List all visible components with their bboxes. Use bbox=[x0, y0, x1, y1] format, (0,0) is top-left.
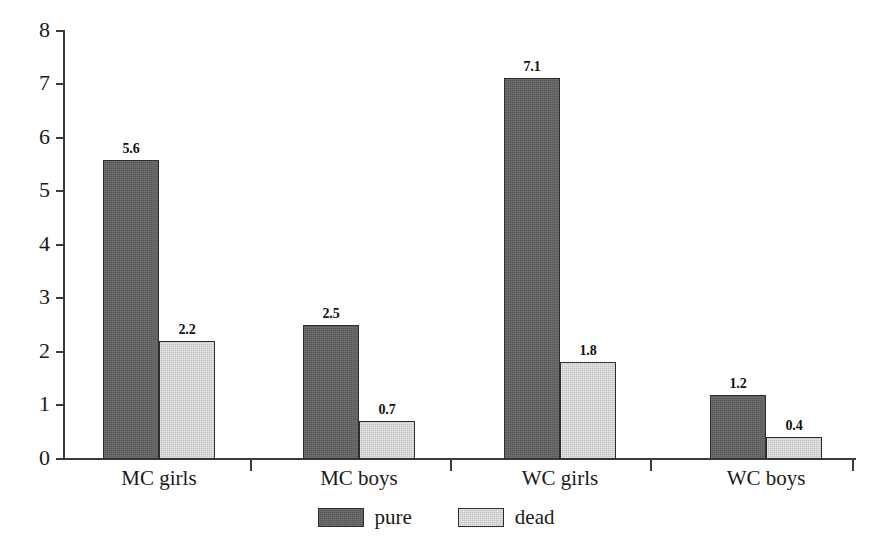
bar-wc-boys-dead[interactable] bbox=[766, 437, 822, 459]
x-tick-3 bbox=[650, 460, 652, 471]
legend-label-pure: pure bbox=[375, 507, 412, 528]
y-tick-label-5: 5 bbox=[18, 179, 50, 201]
bar-value-mc-girls-dead: 2.2 bbox=[159, 323, 215, 337]
x-tick-1 bbox=[250, 460, 252, 471]
legend-item-pure[interactable]: pure bbox=[318, 507, 412, 528]
bar-value-mc-girls-pure: 5.6 bbox=[103, 142, 159, 156]
y-tick-label-1: 1 bbox=[18, 393, 50, 415]
x-tick-4 bbox=[852, 460, 854, 471]
y-tick-1 bbox=[56, 404, 65, 406]
legend-swatch-pure-icon bbox=[318, 508, 364, 527]
y-tick-label-7: 7 bbox=[18, 72, 50, 94]
y-tick-label-0: 0 bbox=[18, 447, 50, 469]
y-tick-label-2: 2 bbox=[18, 340, 50, 362]
bar-value-wc-boys-dead: 0.4 bbox=[766, 419, 822, 433]
bar-value-wc-girls-dead: 1.8 bbox=[560, 344, 616, 358]
bar-value-mc-boys-dead: 0.7 bbox=[359, 403, 415, 417]
legend-label-dead: dead bbox=[515, 507, 555, 528]
y-tick-5 bbox=[56, 190, 65, 192]
legend-swatch-dead-icon bbox=[458, 508, 504, 527]
y-tick-7 bbox=[56, 83, 65, 85]
bar-wc-girls-dead[interactable] bbox=[560, 362, 616, 459]
x-axis-label-wc-boys: WC boys bbox=[686, 466, 846, 490]
bar-value-wc-boys-pure: 1.2 bbox=[710, 377, 766, 391]
bar-wc-girls-pure[interactable] bbox=[504, 78, 560, 459]
bar-mc-boys-dead[interactable] bbox=[359, 421, 415, 459]
y-tick-0 bbox=[56, 458, 65, 460]
bar-mc-boys-pure[interactable] bbox=[303, 325, 359, 459]
bar-wc-boys-pure[interactable] bbox=[710, 395, 766, 459]
y-tick-3 bbox=[56, 297, 65, 299]
x-axis-label-wc-girls: WC girls bbox=[480, 466, 640, 490]
y-tick-label-3: 3 bbox=[18, 286, 50, 308]
x-axis-label-mc-boys: MC boys bbox=[279, 466, 439, 490]
y-tick-8 bbox=[56, 30, 65, 32]
bar-mc-girls-dead[interactable] bbox=[159, 341, 215, 459]
x-tick-2 bbox=[450, 460, 452, 471]
y-tick-2 bbox=[56, 351, 65, 353]
legend: pure dead bbox=[0, 502, 872, 532]
plot-area: 8 7 6 5 4 3 2 1 0 5.6 2.2 MC girls 2.5 bbox=[0, 0, 872, 490]
legend-item-dead[interactable]: dead bbox=[458, 507, 555, 528]
y-tick-label-4: 4 bbox=[18, 233, 50, 255]
x-axis-label-mc-girls: MC girls bbox=[79, 466, 239, 490]
bar-mc-girls-pure[interactable] bbox=[103, 160, 159, 459]
bar-chart: 8 7 6 5 4 3 2 1 0 5.6 2.2 MC girls 2.5 bbox=[0, 0, 872, 543]
y-tick-label-6: 6 bbox=[18, 126, 50, 148]
y-tick-6 bbox=[56, 137, 65, 139]
bar-value-mc-boys-pure: 2.5 bbox=[303, 307, 359, 321]
y-tick-label-8: 8 bbox=[18, 19, 50, 41]
bar-value-wc-girls-pure: 7.1 bbox=[504, 60, 560, 74]
y-tick-4 bbox=[56, 244, 65, 246]
